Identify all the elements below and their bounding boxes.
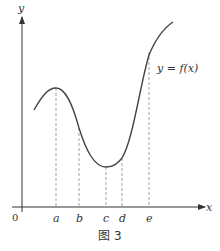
curve-label: y = f(x) xyxy=(156,62,198,75)
tick-guides xyxy=(56,52,149,207)
figure-caption: 图 3 xyxy=(0,226,220,243)
tick-labels: abcde xyxy=(53,212,153,225)
x-axis-label: x xyxy=(206,201,213,214)
function-graph: y x 0 y = f(x) abcde xyxy=(0,0,220,251)
tick-label-e: e xyxy=(146,212,153,225)
tick-label-b: b xyxy=(76,212,83,225)
figure: y x 0 y = f(x) abcde 图 3 xyxy=(0,0,220,251)
tick-label-c: c xyxy=(103,212,109,225)
tick-label-a: a xyxy=(53,212,60,225)
y-axis-label: y xyxy=(17,2,25,15)
tick-label-d: d xyxy=(119,212,126,225)
origin-label: 0 xyxy=(12,212,18,223)
curve-f xyxy=(34,22,173,167)
